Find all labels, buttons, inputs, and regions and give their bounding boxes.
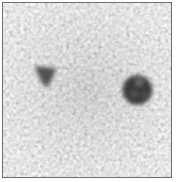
micrograph-image <box>3 3 171 177</box>
right-particle <box>123 75 153 105</box>
micrograph-frame <box>2 2 172 178</box>
